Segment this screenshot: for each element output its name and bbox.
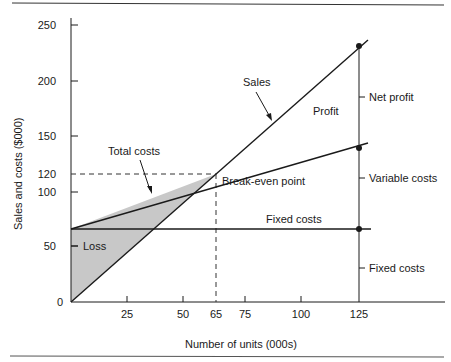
break-even-label: Break-even point	[222, 175, 305, 187]
y-tick-label: 150	[38, 130, 56, 142]
sales-arrow-icon	[266, 113, 272, 121]
x-tick-label: 100	[292, 308, 310, 320]
x-ticks	[127, 296, 301, 302]
variable-costs-label: Variable costs	[369, 172, 438, 184]
total-costs-arrow-icon	[147, 186, 152, 194]
break-even-chart: 250 200 150 120 100 50 0 25 50 65 75 100…	[0, 0, 451, 362]
y-ticks	[71, 25, 78, 246]
top-rule	[12, 3, 444, 5]
x-tick-label: 65	[210, 308, 222, 320]
fixed-costs-point-125	[356, 226, 362, 232]
y-tick-label: 100	[38, 186, 56, 198]
x-axis-title: Number of units (000s)	[185, 338, 297, 350]
total-costs-label: Total costs	[108, 145, 160, 157]
x-tick-label: 50	[177, 308, 189, 320]
loss-label: Loss	[83, 240, 107, 252]
profit-label: Profit	[313, 105, 339, 117]
y-tick-label: 50	[44, 240, 56, 252]
fixed-costs-label: Fixed costs	[266, 213, 322, 225]
y-tick-label: 250	[38, 19, 56, 31]
sales-point-125	[356, 43, 362, 49]
x-tick-label: 25	[121, 308, 133, 320]
y-axis-title: Sales and costs ($000)	[12, 117, 24, 230]
y-tick-label: 0	[57, 296, 63, 308]
total-costs-point-125	[356, 145, 362, 151]
net-profit-label: Net profit	[369, 91, 414, 103]
y-tick-label: 200	[38, 75, 56, 87]
fixed-costs-bracket-label: Fixed costs	[369, 262, 425, 274]
bottom-rule	[10, 356, 444, 357]
sales-line	[71, 40, 368, 302]
x-tick-label: 75	[239, 308, 251, 320]
sales-label: Sales	[243, 76, 271, 88]
y-tick-label: 120	[38, 168, 56, 180]
x-tick-label: 125	[350, 308, 368, 320]
